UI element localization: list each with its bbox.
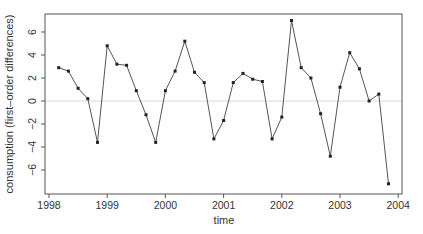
data-point-marker (300, 66, 303, 69)
data-point-marker (309, 77, 312, 80)
data-point-marker (193, 71, 196, 74)
y-tick-label: 4 (26, 52, 38, 58)
data-point-marker (222, 119, 225, 122)
x-axis: 1998199920002001200220032004 (37, 194, 410, 211)
data-point-marker (319, 112, 322, 115)
data-point-marker (348, 51, 351, 54)
data-point-marker (125, 64, 128, 67)
data-point-marker (67, 70, 70, 73)
y-axis: −6−4−20246 (26, 29, 45, 176)
x-tick-label: 1999 (96, 199, 120, 211)
data-point-marker (242, 72, 245, 75)
y-axis-label: consumption (first–order differences) (3, 15, 15, 194)
x-tick-label: 2003 (328, 199, 352, 211)
data-point-marker (77, 87, 80, 90)
data-point-marker (377, 93, 380, 96)
data-point-marker (271, 137, 274, 140)
line-chart: 1998199920002001200220032004 −6−4−20246 … (0, 0, 423, 234)
data-point-marker (329, 155, 332, 158)
y-tick-label: 6 (26, 29, 38, 35)
y-tick-label: −2 (26, 118, 38, 130)
x-axis-label: time (214, 214, 235, 226)
y-tick-label: 2 (26, 75, 38, 81)
x-tick-label: 2000 (154, 199, 178, 211)
data-point-marker (261, 80, 264, 83)
data-point-marker (232, 81, 235, 84)
data-point-marker (86, 97, 89, 100)
data-point-marker (106, 44, 109, 47)
x-tick-label: 2004 (387, 199, 411, 211)
data-point-marker (174, 70, 177, 73)
data-point-marker (145, 113, 148, 116)
plot-frame (45, 14, 402, 194)
data-point-marker (358, 67, 361, 70)
y-tick-label: −4 (26, 141, 38, 153)
x-tick-label: 2002 (270, 199, 294, 211)
data-point-marker (339, 86, 342, 89)
data-point-marker (280, 116, 283, 119)
x-tick-label: 2001 (212, 199, 236, 211)
data-point-marker (57, 66, 60, 69)
data-point-marker (154, 141, 157, 144)
data-point-marker (290, 19, 293, 22)
data-series (57, 19, 390, 185)
y-tick-label: 0 (26, 98, 38, 104)
data-point-marker (183, 40, 186, 43)
data-point-marker (368, 100, 371, 103)
data-point-marker (115, 63, 118, 66)
x-tick-label: 1998 (37, 199, 61, 211)
data-point-marker (212, 137, 215, 140)
data-point-marker (164, 89, 167, 92)
data-point-marker (203, 81, 206, 84)
y-tick-label: −6 (26, 164, 38, 176)
data-point-marker (135, 89, 138, 92)
data-point-marker (387, 182, 390, 185)
data-point-marker (96, 141, 99, 144)
data-point-marker (251, 78, 254, 81)
